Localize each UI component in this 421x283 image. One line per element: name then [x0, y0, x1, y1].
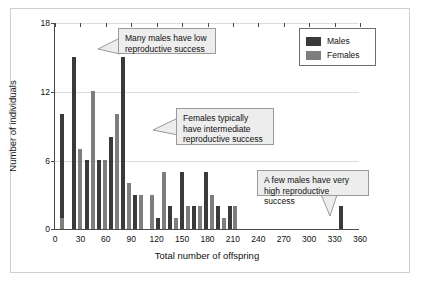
x-tickmark-150	[182, 23, 183, 27]
annotation-many-males-line1: Many males have low	[125, 33, 209, 44]
annotation-few-males: A few males have very high reproductive …	[257, 170, 369, 196]
y-tickmark-0	[51, 229, 55, 230]
annotation-females-line1: Females typically	[183, 113, 267, 124]
bar-females-143	[174, 218, 178, 230]
legend-item-females: Females	[306, 48, 369, 62]
annotation-few-males-line1: A few males have very	[264, 175, 362, 186]
x-tickmark-210	[233, 23, 234, 27]
bar-females-87	[127, 183, 131, 229]
x-tick-label-300: 300	[302, 234, 316, 244]
x-tick-label-240: 240	[251, 234, 265, 244]
legend-label-females: Females	[327, 50, 360, 60]
bar-males-122	[156, 218, 160, 230]
x-tickmark-330	[335, 23, 336, 27]
y-axis-label: Number of individuals	[7, 80, 18, 171]
x-tickmark-180	[208, 23, 209, 27]
x-tick-label-150: 150	[175, 234, 189, 244]
bar-males-150	[180, 172, 184, 230]
bar-males-52	[97, 160, 101, 229]
x-tick-label-30: 30	[76, 234, 85, 244]
x-tickmark-240	[258, 23, 259, 27]
x-tickmark-0	[55, 23, 56, 27]
x-tick-label-120: 120	[150, 234, 164, 244]
x-tickmark-60	[106, 23, 107, 27]
bar-females-185	[210, 195, 214, 230]
legend: Males Females	[299, 28, 376, 66]
x-tickmark-270	[284, 23, 285, 27]
bar-females-59	[103, 160, 107, 229]
bar-males-8	[60, 114, 64, 229]
bar-females-115	[150, 195, 154, 230]
y-tick-label-18: 18	[24, 18, 50, 28]
x-tickmark-90	[131, 23, 132, 27]
x-tick-label-360: 360	[353, 234, 367, 244]
x-tick-label-210: 210	[226, 234, 240, 244]
bar-males-206	[228, 206, 232, 229]
x-tickmark-360	[360, 23, 361, 27]
y-tick-label-12: 12	[24, 87, 50, 97]
y-tick-label-0: 0	[24, 224, 50, 234]
bar-females-73	[115, 114, 119, 229]
bar-females-29	[78, 149, 82, 230]
annotation-many-males: Many males have low reproductive success	[118, 28, 216, 54]
bar-females-157	[186, 206, 190, 229]
bar-males-136	[168, 206, 172, 229]
bar-males-66	[109, 137, 113, 229]
x-tickmark-300	[309, 23, 310, 27]
annotation-many-males-line2: reproductive success	[125, 44, 209, 55]
x-tickmark-30	[80, 23, 81, 27]
legend-swatch-females-icon	[306, 51, 321, 60]
bar-males-94	[133, 195, 137, 230]
legend-label-males: Males	[327, 36, 350, 46]
bar-males-80	[121, 57, 125, 230]
legend-item-males: Males	[306, 34, 369, 48]
x-tick-label-330: 330	[327, 234, 341, 244]
bar-females-171	[198, 206, 202, 229]
bar-females-45	[91, 91, 95, 229]
bar-females-8	[60, 218, 64, 230]
x-tick-label-180: 180	[200, 234, 214, 244]
x-tick-label-90: 90	[127, 234, 136, 244]
bar-males-192	[216, 206, 220, 229]
x-tick-label-0: 0	[53, 234, 58, 244]
bar-females-129	[162, 172, 166, 230]
y-tick-label-6: 6	[24, 156, 50, 166]
bar-males-164	[192, 206, 196, 229]
bar-males-337	[339, 206, 343, 229]
chart-figure: Number of individuals Total number of of…	[0, 0, 421, 283]
bar-females-199	[222, 218, 226, 230]
x-tick-label-270: 270	[277, 234, 291, 244]
bar-males-178	[204, 172, 208, 230]
bar-females-101	[139, 195, 143, 230]
x-tick-label-60: 60	[101, 234, 110, 244]
bar-males-22	[72, 57, 76, 230]
annotation-few-males-line2: high reproductive success	[264, 186, 362, 207]
annotation-females-line2: have intermediate	[183, 124, 267, 135]
legend-swatch-males-icon	[306, 37, 321, 46]
bar-females-213	[233, 206, 237, 229]
x-axis-label: Total number of offspring	[155, 250, 259, 261]
x-tickmark-120	[157, 23, 158, 27]
annotation-females-line3: reproductive success	[183, 134, 267, 145]
bar-males-38	[85, 160, 89, 229]
annotation-females-intermediate: Females typically have intermediate repr…	[176, 108, 274, 145]
